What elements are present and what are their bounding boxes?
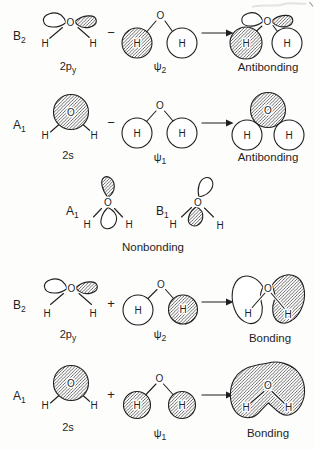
hydrogen-symbol: H xyxy=(242,38,249,49)
plus-operator: + xyxy=(107,387,115,402)
result-caption: Bonding xyxy=(247,427,289,439)
oh-bond xyxy=(164,384,174,395)
p-lobe-bottom-shaded xyxy=(188,207,202,226)
oh-bond xyxy=(146,384,156,395)
oh-bond xyxy=(50,28,63,39)
p-lobe-right-shaded xyxy=(76,282,97,294)
scan-artifact xyxy=(252,2,313,7)
p-lobe-top-shaded xyxy=(102,177,115,198)
psi2-group-orbital: O H H xyxy=(123,279,198,326)
oxygen-symbol: O xyxy=(264,105,272,116)
antibonding-b2-result: O H H xyxy=(230,13,302,59)
hydrogen-symbol: H xyxy=(285,130,292,141)
hydrogen-symbol: H xyxy=(133,400,140,411)
orbital-label-2s: 2s xyxy=(62,149,74,161)
orbital-label-2py: 2py xyxy=(60,60,77,75)
reaction-arrow xyxy=(202,298,234,305)
p-orbital-2py: O H H xyxy=(41,13,96,49)
oxygen-symbol: O xyxy=(67,17,75,28)
nonbonding-caption: Nonbonding xyxy=(122,241,184,253)
mo-diagram-figure: B2 O H H 2py − O H H ψ2 xyxy=(0,0,315,450)
hydrogen-symbol: H xyxy=(133,128,140,139)
psi1-label: ψ1 xyxy=(154,151,167,166)
hydrogen-symbol: H xyxy=(90,130,97,141)
row-bonding-b2: B2 O H H 2py + O H H ψ2 xyxy=(13,275,305,344)
oh-bond xyxy=(148,290,157,299)
nonbonding-section: A1 O H H B1 O H H Nonbonding xyxy=(66,177,224,253)
hydrogen-symbol: H xyxy=(89,308,96,319)
oxygen-symbol: O xyxy=(67,378,75,389)
hydrogen-symbol: H xyxy=(244,308,251,319)
oxygen-symbol: O xyxy=(67,107,75,118)
p-lobe-right-shaded xyxy=(272,15,293,27)
hydrogen-symbol: H xyxy=(41,400,48,411)
oxygen-symbol: O xyxy=(104,197,112,208)
reaction-arrow xyxy=(202,119,234,126)
oh-bond xyxy=(165,21,173,32)
oh-bond xyxy=(51,125,60,133)
bonding-a1-result: O H H xyxy=(230,362,304,418)
orbital-label-2py: 2py xyxy=(60,328,77,343)
hydrogen-symbol: H xyxy=(179,304,186,315)
oxygen-symbol: O xyxy=(68,283,76,294)
hydrogen-symbol: H xyxy=(83,219,90,230)
psi2-label: ψ2 xyxy=(154,328,167,343)
psi1-label: ψ1 xyxy=(154,427,167,442)
psi1-group-orbital: O H H xyxy=(124,373,196,419)
symmetry-label-a1: A1 xyxy=(13,118,26,134)
oh-bond xyxy=(51,294,64,305)
row-antibonding-b2: B2 O H H 2py − O H H ψ2 xyxy=(13,10,302,76)
p-lobe-left-plain xyxy=(43,13,66,27)
oxygen-symbol: O xyxy=(264,283,272,294)
result-caption: Bonding xyxy=(249,332,291,344)
row-antibonding-a1: A1 O H H 2s − O H H ψ1 xyxy=(13,93,304,166)
oxygen-symbol: O xyxy=(157,279,165,290)
p-lobe-left-plain xyxy=(242,13,263,26)
s-orbital-2s: O H H xyxy=(41,95,97,142)
hydrogen-symbol: H xyxy=(169,219,176,230)
symmetry-label-a1: A1 xyxy=(13,389,26,405)
p-lobe-right-shaded xyxy=(75,16,96,28)
symmetry-label-b1: B1 xyxy=(156,204,169,220)
hydrogen-symbol: H xyxy=(285,402,292,413)
oh-bond xyxy=(165,111,174,122)
hydrogen-symbol: H xyxy=(133,38,140,49)
plus-operator: + xyxy=(107,296,115,311)
nonbonding-b1-orbital: O H H xyxy=(169,178,223,231)
psi1-group-orbital: O H H xyxy=(122,100,197,148)
result-caption: Antibonding xyxy=(238,151,299,163)
hydrogen-symbol: H xyxy=(89,38,96,49)
symmetry-label-b2: B2 xyxy=(13,298,26,314)
oxygen-symbol: O xyxy=(194,197,202,208)
oxygen-symbol: O xyxy=(156,373,164,384)
hydrogen-symbol: H xyxy=(216,220,223,231)
hydrogen-symbol: H xyxy=(125,219,132,230)
psi2-group-orbital: O H H xyxy=(122,10,197,59)
mo-diagram-canvas: B2 O H H 2py − O H H ψ2 xyxy=(0,0,315,450)
hydrogen-symbol: H xyxy=(243,130,250,141)
oxygen-symbol: O xyxy=(156,100,164,111)
oxygen-symbol: O xyxy=(264,380,272,391)
oh-bond xyxy=(79,294,92,305)
psi2-label: ψ2 xyxy=(154,60,167,75)
hydrogen-symbol: H xyxy=(41,38,48,49)
oh-bond xyxy=(147,111,157,122)
oh-bond xyxy=(147,21,156,32)
hydrogen-symbol: H xyxy=(178,400,185,411)
oh-bond xyxy=(166,290,174,299)
orbital-label-2s: 2s xyxy=(62,421,74,433)
oh-bond xyxy=(51,396,60,404)
oh-bond xyxy=(205,208,214,217)
antibonding-a1-result: O H H xyxy=(232,93,304,151)
result-caption: Antibonding xyxy=(238,61,299,73)
p-lobe-bottom-plain xyxy=(101,208,117,229)
hydrogen-symbol: H xyxy=(284,309,291,320)
oh-bond xyxy=(94,209,102,218)
p-orbital-2py: O H H xyxy=(43,279,97,319)
hydrogen-symbol: H xyxy=(134,305,141,316)
hydrogen-symbol: H xyxy=(90,400,97,411)
hydrogen-symbol: H xyxy=(178,128,185,139)
hydrogen-symbol: H xyxy=(283,38,290,49)
oxygen-symbol: O xyxy=(157,10,165,21)
reaction-arrow xyxy=(202,391,234,398)
